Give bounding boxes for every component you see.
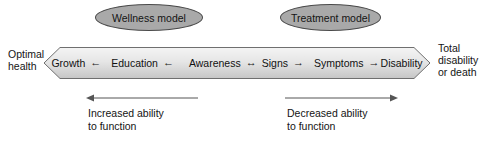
- health-illness-continuum-diagram: Wellness model Treatment model Optimal h…: [0, 0, 481, 141]
- increased-ability-line2: to function: [88, 120, 164, 133]
- total-disability-label: Total disability or death: [438, 42, 478, 79]
- optimal-health-line2: health: [8, 60, 44, 72]
- increased-ability-caption: Increased ability to function: [88, 107, 164, 132]
- total-disability-line1: Total: [438, 42, 478, 54]
- wellness-model-label: Wellness model: [112, 12, 186, 24]
- decreased-ability-arrow-icon: [285, 89, 398, 99]
- treatment-model-ellipse: Treatment model: [280, 4, 381, 31]
- continuum-band-shape: [44, 45, 430, 81]
- decreased-ability-line2: to function: [287, 120, 368, 133]
- optimal-health-label: Optimal health: [8, 48, 44, 72]
- increased-ability-arrow-icon: [86, 89, 198, 99]
- decreased-ability-line1: Decreased ability: [287, 107, 368, 120]
- total-disability-line3: or death: [438, 66, 478, 78]
- decreased-ability-caption: Decreased ability to function: [287, 107, 368, 132]
- increased-ability-line1: Increased ability: [88, 107, 164, 120]
- total-disability-line2: disability: [438, 54, 478, 66]
- optimal-health-line1: Optimal: [8, 48, 44, 60]
- wellness-model-ellipse: Wellness model: [95, 4, 203, 31]
- treatment-model-label: Treatment model: [291, 12, 370, 24]
